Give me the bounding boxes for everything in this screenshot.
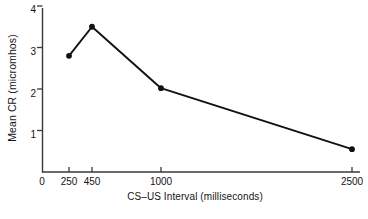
- line-chart-figure: Mean CR (micromhos) 4 3 2 1 0 250 450 10…: [0, 0, 368, 219]
- x-axis-label-text: CS–US Interval (milliseconds): [127, 191, 263, 202]
- series-line-mean-cr: [69, 27, 352, 149]
- data-point-450: [89, 24, 95, 30]
- y-tick-label-3: 3: [22, 46, 36, 57]
- y-tick-label-2: 2: [22, 88, 36, 99]
- data-point-250: [66, 53, 72, 59]
- axes-spines: [42, 8, 360, 173]
- x-axis-ticks: [69, 167, 352, 172]
- y-axis-ticks: [37, 6, 43, 131]
- x-axis-label: CS–US Interval (milliseconds): [0, 191, 368, 202]
- x-tick-label-2500: 2500: [332, 176, 368, 187]
- x-tick-label-1000: 1000: [141, 176, 181, 187]
- y-tick-label-1: 1: [22, 129, 36, 140]
- data-point-2500: [349, 146, 355, 152]
- data-point-1000: [158, 85, 164, 91]
- caption-fragment: [112, 208, 368, 219]
- x-tick-label-450: 450: [72, 176, 112, 187]
- y-tick-label-4: 4: [22, 4, 36, 15]
